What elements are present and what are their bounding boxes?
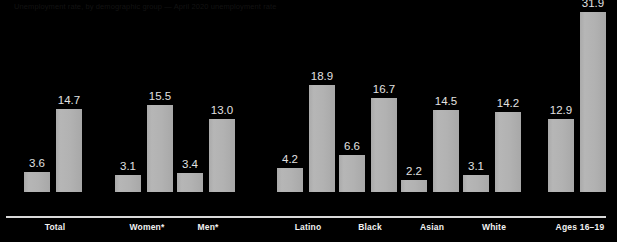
bar-value-label: 6.6	[344, 140, 360, 152]
bar-value-label: 3.1	[468, 160, 484, 172]
bar-rect[interactable]	[548, 119, 574, 192]
bar-value-label: 3.1	[120, 160, 136, 172]
bar-item[interactable]: 6.6	[339, 0, 365, 192]
category-label: Black	[358, 222, 382, 232]
bar-pair: 2.214.5	[401, 0, 459, 192]
unemployment-bar-chart: Unemployment rate, by demographic group …	[0, 0, 617, 242]
bar-value-label: 14.7	[58, 94, 80, 106]
bar-value-label: 2.2	[406, 165, 422, 177]
bar-item[interactable]: 14.5	[433, 0, 459, 192]
bar-value-label: 31.9	[582, 0, 604, 9]
bar-item[interactable]: 3.4	[177, 0, 203, 192]
bar-rect[interactable]	[401, 180, 427, 192]
bar-value-label: 16.7	[373, 83, 395, 95]
plot-area: 3.614.73.115.53.413.04.218.96.616.72.214…	[0, 0, 617, 217]
bar-item[interactable]: 4.2	[277, 0, 303, 192]
bar-item[interactable]: 3.1	[115, 0, 141, 192]
x-axis-line	[6, 216, 606, 218]
bar-rect[interactable]	[177, 173, 203, 192]
category-label: Latino	[295, 222, 322, 232]
bar-value-label: 18.9	[311, 70, 333, 82]
bar-rect[interactable]	[115, 175, 141, 192]
bar-pair: 3.115.5	[115, 0, 173, 192]
bar-value-label: 13.0	[211, 104, 233, 116]
category-label: Men*	[197, 222, 218, 232]
bar-pair: 3.114.2	[463, 0, 521, 192]
category-label: Total	[45, 222, 66, 232]
bar-rect[interactable]	[147, 105, 173, 192]
bar-rect[interactable]	[209, 119, 235, 192]
bar-item[interactable]: 3.1	[463, 0, 489, 192]
bar-rect[interactable]	[371, 98, 397, 192]
bar-item[interactable]: 15.5	[147, 0, 173, 192]
bar-pair: 3.614.7	[24, 0, 82, 192]
bar-item[interactable]: 16.7	[371, 0, 397, 192]
category-label: White	[482, 222, 506, 232]
bar-rect[interactable]	[56, 109, 82, 192]
bar-rect[interactable]	[463, 175, 489, 192]
bar-pair: 4.218.9	[277, 0, 335, 192]
bar-item[interactable]: 13.0	[209, 0, 235, 192]
bar-item[interactable]: 18.9	[309, 0, 335, 192]
bar-rect[interactable]	[277, 168, 303, 192]
category-label: Women*	[129, 222, 164, 232]
bar-value-label: 14.2	[497, 97, 519, 109]
bar-rect[interactable]	[24, 172, 50, 192]
bar-rect[interactable]	[495, 112, 521, 192]
bar-value-label: 14.5	[435, 95, 457, 107]
bar-value-label: 3.4	[182, 158, 198, 170]
bar-item[interactable]: 3.6	[24, 0, 50, 192]
bar-pair: 12.931.9	[548, 0, 606, 192]
bar-rect[interactable]	[339, 155, 365, 192]
bar-rect[interactable]	[580, 12, 606, 192]
bar-rect[interactable]	[309, 85, 335, 192]
bar-pair: 6.616.7	[339, 0, 397, 192]
bar-value-label: 12.9	[550, 104, 572, 116]
bar-rect[interactable]	[433, 110, 459, 192]
bar-item[interactable]: 31.9	[580, 0, 606, 192]
bar-item[interactable]: 12.9	[548, 0, 574, 192]
bar-item[interactable]: 14.7	[56, 0, 82, 192]
bar-value-label: 15.5	[149, 90, 171, 102]
bar-pair: 3.413.0	[177, 0, 235, 192]
category-label: Ages 16–19	[556, 222, 605, 232]
bar-value-label: 4.2	[282, 153, 298, 165]
bar-item[interactable]: 14.2	[495, 0, 521, 192]
bar-item[interactable]: 2.2	[401, 0, 427, 192]
category-label: Asian	[420, 222, 444, 232]
bar-value-label: 3.6	[29, 157, 45, 169]
